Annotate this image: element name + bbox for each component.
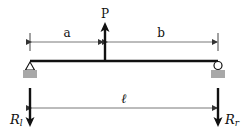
point-load-p: P xyxy=(101,7,110,61)
label-p: P xyxy=(101,7,109,21)
pin-support-left xyxy=(23,62,37,78)
reaction-left: Rl xyxy=(9,88,35,128)
support-base-left xyxy=(23,70,37,78)
label-reaction-left: Rl xyxy=(9,112,23,128)
support-base-right xyxy=(211,70,225,78)
pin-triangle-icon xyxy=(26,62,35,70)
beam-diagram: a b P ℓ Rl xyxy=(0,0,251,134)
roller-support-right xyxy=(211,62,225,79)
dimension-ab: a b xyxy=(30,26,218,51)
label-b: b xyxy=(157,26,165,40)
reaction-right: Rr xyxy=(214,88,240,128)
label-reaction-right: Rr xyxy=(224,112,240,128)
dimension-span: ℓ xyxy=(31,91,217,108)
label-a: a xyxy=(63,26,70,40)
label-span: ℓ xyxy=(121,91,127,106)
roller-circle-icon xyxy=(214,62,222,70)
